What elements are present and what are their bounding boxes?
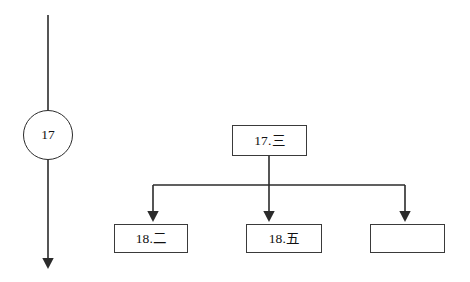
child-node-box-2: 18.五 (246, 224, 322, 253)
parent-node-box: 17.三 (232, 125, 307, 156)
child-node-label-1: 18.二 (136, 232, 167, 246)
child-node-label-2: 18.五 (269, 232, 300, 246)
diagram-canvas: 17 17.三 18.二 18.五 (0, 0, 470, 282)
parent-node-label: 17.三 (254, 134, 285, 148)
child-node-box-3 (370, 224, 445, 253)
child-node-box-1: 18.二 (114, 224, 188, 253)
circle-node-label: 17 (41, 128, 55, 142)
circle-node-17: 17 (23, 110, 73, 160)
